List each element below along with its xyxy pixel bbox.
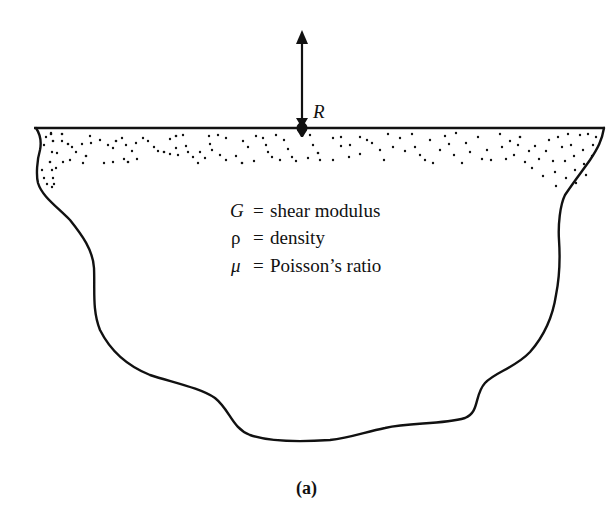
density-symbol: ρ <box>231 227 240 249</box>
filled-dot-icon <box>296 118 308 137</box>
poissons-ratio-definition: Poisson’s ratio <box>270 255 381 277</box>
arrow-up-icon <box>296 30 308 122</box>
shear-modulus-definition: shear modulus <box>270 200 380 222</box>
diagram-canvas: R G = shear modulus ρ = density μ = Pois… <box>0 0 611 527</box>
density-definition: density <box>270 227 325 249</box>
shear-modulus-symbol: G <box>230 200 244 222</box>
equals-sign: = <box>253 255 264 277</box>
half-space-boundary <box>36 128 604 441</box>
figure-caption: (a) <box>296 478 317 499</box>
equals-sign: = <box>253 200 264 222</box>
equals-sign: = <box>253 227 264 249</box>
force-label: R <box>313 101 325 123</box>
surface-stipple <box>41 132 597 188</box>
poissons-ratio-symbol: μ <box>231 255 241 277</box>
